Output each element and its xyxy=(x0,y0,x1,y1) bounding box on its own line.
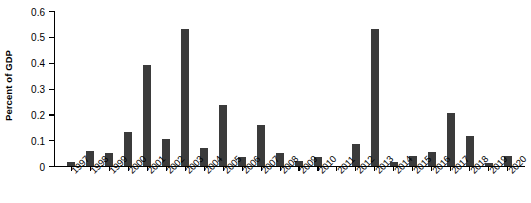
y-tick-label: 0.6 xyxy=(31,6,45,17)
y-tick-label: 0 xyxy=(39,161,45,172)
bar xyxy=(181,29,189,166)
bar-chart-figure: Percent of GDP 00.10.20.30.40.50.6 19971… xyxy=(0,0,531,203)
bar xyxy=(371,29,379,166)
plot-area: 00.10.20.30.40.50.6 xyxy=(54,11,525,166)
y-tick-label: 0.2 xyxy=(31,109,45,120)
bar xyxy=(143,65,151,166)
y-tick-label: 0.4 xyxy=(31,58,45,69)
bars-layer xyxy=(54,11,525,166)
y-tick-label: 0.1 xyxy=(31,135,45,146)
y-axis-title: Percent of GDP xyxy=(0,0,18,170)
y-tick-label: 0.5 xyxy=(31,32,45,43)
x-axis-labels: 1997199819992000200120022003200420052006… xyxy=(54,168,525,203)
y-tick-label: 0.3 xyxy=(31,84,45,95)
y-axis-title-label: Percent of GDP xyxy=(4,49,15,120)
y-tick-mark: 0 xyxy=(49,166,54,167)
